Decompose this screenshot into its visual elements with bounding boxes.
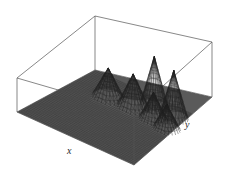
surface-plot-figure: x y <box>0 0 230 196</box>
x-axis-label: x <box>67 146 71 156</box>
surface-plot-canvas <box>0 0 230 196</box>
y-axis-label: y <box>185 120 189 130</box>
